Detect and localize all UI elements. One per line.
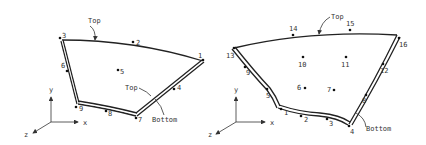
node-4 (173, 88, 176, 91)
node-3 (326, 118, 329, 121)
node-8 (105, 110, 108, 113)
node-label-5: 5 (266, 92, 270, 100)
right-shell-element: Top Bottom 1 2 3 4 5 6 7 8 9 10 11 12 13… (208, 13, 407, 139)
node-label-15: 15 (346, 20, 354, 28)
node-10 (302, 56, 305, 59)
node-label-9: 9 (246, 69, 250, 77)
right-top-edge (234, 34, 397, 48)
shell-element-diagram: Top Top Bottom 1 2 3 4 5 6 7 8 9 y x z (0, 0, 426, 145)
node-label-5: 5 (120, 68, 124, 76)
node-6 (304, 87, 307, 90)
left-left-edge (63, 40, 79, 103)
x-axis-label: x (270, 119, 274, 127)
z-axis-arrow (216, 122, 236, 134)
node-label-16: 16 (399, 41, 407, 49)
node-label-4: 4 (177, 84, 181, 92)
node-9 (244, 66, 247, 69)
node-label-13: 13 (226, 52, 234, 60)
left-right-edge (136, 60, 202, 113)
left-shell-element: Top Top Bottom 1 2 3 4 5 6 7 8 9 y x z (24, 17, 204, 139)
node-label-3: 3 (329, 120, 333, 128)
node-4 (348, 125, 351, 128)
node-16 (398, 37, 401, 40)
right-axes: y x z (208, 86, 274, 139)
node-label-3: 3 (62, 32, 66, 40)
node-label-8: 8 (362, 97, 366, 105)
z-axis-label: z (208, 131, 212, 139)
top-leader-line (90, 26, 95, 40)
node-13 (233, 47, 236, 50)
node-label-1: 1 (284, 109, 288, 117)
node-label-6: 6 (61, 62, 65, 70)
node-5 (117, 69, 120, 72)
bottom-label-right: Bottom (366, 125, 391, 133)
node-14 (292, 34, 295, 37)
node-1 (280, 108, 283, 111)
node-label-2: 2 (304, 116, 308, 124)
node-5 (266, 88, 269, 91)
node-2 (300, 115, 303, 118)
right-right-edge (349, 35, 397, 124)
node-label-11: 11 (341, 61, 349, 69)
node-7 (333, 89, 336, 92)
node-label-10: 10 (298, 61, 306, 69)
node-2 (132, 41, 135, 44)
bottom-label: Bottom (152, 116, 177, 124)
node-8 (365, 94, 368, 97)
right-bottom-edge (279, 105, 350, 122)
node-7 (135, 117, 138, 120)
left-axes: y x z (24, 86, 87, 139)
node-label-8: 8 (108, 110, 112, 118)
node-9 (75, 106, 78, 109)
node-11 (345, 56, 348, 59)
node-12 (382, 63, 385, 66)
node-label-7: 7 (138, 116, 142, 124)
z-axis-label: z (24, 131, 28, 139)
x-axis-label: x (83, 119, 87, 127)
y-axis-label: y (49, 86, 53, 94)
node-15 (349, 29, 352, 32)
top-label: Top (88, 17, 101, 25)
node-label-4: 4 (350, 128, 354, 136)
z-axis-arrow (33, 122, 51, 133)
node-label-2: 2 (136, 39, 140, 47)
y-axis-label: y (234, 86, 238, 94)
node-label-12: 12 (380, 67, 388, 75)
node-label-7: 7 (327, 86, 331, 94)
node-3 (59, 37, 62, 40)
node-label-6: 6 (297, 84, 301, 92)
node-label-9: 9 (79, 105, 83, 113)
node-label-14: 14 (289, 25, 297, 33)
top-label-right: Top (331, 13, 344, 21)
node-6 (66, 70, 69, 73)
node-label-1: 1 (198, 52, 202, 60)
top-label-2: Top (125, 84, 138, 92)
